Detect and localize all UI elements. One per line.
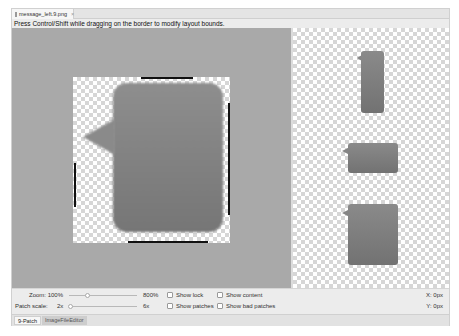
zoom-slider-thumb[interactable] bbox=[85, 293, 90, 298]
zoom-slider-track[interactable] bbox=[69, 295, 137, 296]
zoom-max-label: 800% bbox=[143, 292, 158, 298]
file-tab[interactable]: message_left.9.png × bbox=[12, 9, 74, 19]
controls-bar: Zoom: 100% 800% Show lock Show content X… bbox=[12, 288, 449, 314]
top-stretch-marker[interactable] bbox=[141, 77, 193, 79]
checkbox-icon[interactable] bbox=[217, 292, 223, 298]
zoom-label: Zoom: 100% bbox=[29, 292, 63, 298]
show-bad-patches-checkbox[interactable]: Show bad patches bbox=[217, 303, 275, 309]
y-coordinate: Y: 0px bbox=[426, 303, 443, 309]
bottom-content-marker[interactable] bbox=[128, 241, 208, 243]
preview-body bbox=[348, 204, 398, 265]
preview-panel bbox=[293, 28, 449, 288]
speech-bubble-tail bbox=[83, 119, 115, 155]
patch-scale-value: 2x bbox=[57, 303, 63, 309]
tab-image-file-editor[interactable]: ImageFileEditor bbox=[42, 316, 87, 325]
image-frame bbox=[73, 77, 230, 243]
close-icon[interactable]: × bbox=[71, 11, 74, 17]
hint-text: Press Control/Shift while dragging on th… bbox=[14, 19, 225, 28]
show-content-checkbox[interactable]: Show content bbox=[217, 292, 262, 298]
show-lock-checkbox[interactable]: Show lock bbox=[167, 292, 203, 298]
patch-scale-slider-track[interactable] bbox=[69, 306, 137, 307]
right-content-marker[interactable] bbox=[228, 103, 230, 215]
editor-mode-tabs: 9-Patch ImageFileEditor bbox=[12, 314, 449, 326]
tab-9-patch[interactable]: 9-Patch bbox=[14, 316, 41, 325]
image-file-icon bbox=[15, 12, 17, 17]
x-coordinate: X: 0px bbox=[426, 292, 443, 298]
preview-body bbox=[348, 143, 398, 173]
file-tab-label: message_left.9.png bbox=[19, 11, 67, 17]
speech-bubble-body bbox=[113, 83, 223, 232]
file-tab-bar: message_left.9.png × bbox=[12, 9, 449, 19]
left-stretch-marker[interactable] bbox=[74, 163, 76, 207]
ninepatch-canvas[interactable] bbox=[12, 28, 291, 288]
zoom-value: 100% bbox=[48, 292, 63, 298]
checkbox-icon[interactable] bbox=[217, 303, 223, 309]
patch-scale-label: Patch scale: bbox=[15, 303, 48, 309]
checkbox-icon[interactable] bbox=[167, 303, 173, 309]
checkbox-icon[interactable] bbox=[167, 292, 173, 298]
preview-body bbox=[361, 51, 384, 113]
editor-window: message_left.9.png × Press Control/Shift… bbox=[11, 8, 450, 326]
show-patches-checkbox[interactable]: Show patches bbox=[167, 303, 214, 309]
patch-scale-slider-thumb[interactable] bbox=[68, 304, 73, 309]
patch-scale-max-label: 6x bbox=[143, 303, 149, 309]
